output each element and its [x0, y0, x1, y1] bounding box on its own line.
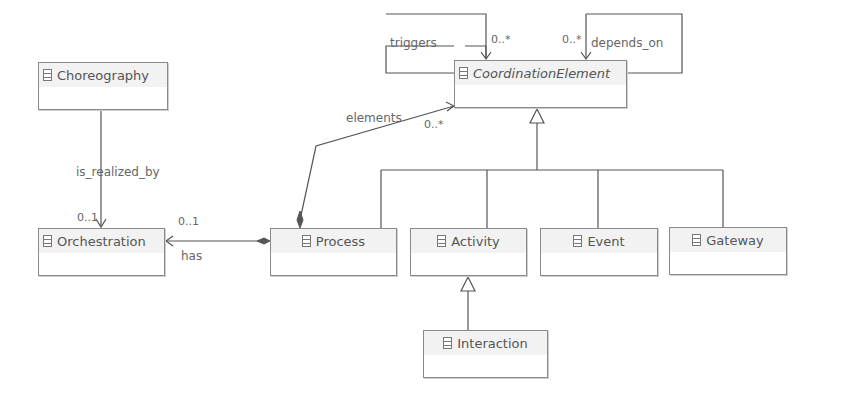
- coordination-generalization-triangle-icon: [530, 109, 544, 123]
- triggers-association-line: [386, 46, 454, 73]
- class-name: CoordinationElement: [473, 66, 610, 81]
- class-name: Process: [316, 234, 365, 249]
- depends-on-multiplicity: 0..*: [562, 33, 582, 46]
- class-icon: [437, 235, 446, 247]
- class-name: Choreography: [57, 68, 149, 83]
- elements-multiplicity: 0..*: [424, 118, 444, 131]
- has-composition-diamond-icon: [257, 238, 270, 244]
- class-icon: [43, 69, 52, 81]
- class-name: Gateway: [706, 233, 763, 248]
- triggers-label: triggers: [390, 36, 437, 50]
- class-coordination-element[interactable]: CoordinationElement: [454, 60, 627, 108]
- class-activity[interactable]: Activity: [410, 228, 527, 276]
- class-icon: [443, 337, 452, 349]
- class-name: Orchestration: [57, 234, 146, 249]
- has-multiplicity: 0..1: [178, 215, 199, 228]
- class-interaction[interactable]: Interaction: [423, 330, 548, 378]
- class-icon: [692, 234, 701, 246]
- elements-label: elements: [346, 111, 402, 125]
- class-choreography[interactable]: Choreography: [38, 62, 168, 110]
- class-event[interactable]: Event: [540, 228, 658, 276]
- activity-generalization-triangle-icon: [461, 277, 475, 291]
- class-name: Event: [587, 234, 624, 249]
- class-diagram-canvas: CoordinationElement Choreography Orchest…: [0, 0, 852, 399]
- class-icon: [573, 235, 582, 247]
- elements-composition-diamond-icon: [297, 211, 303, 228]
- class-name: Activity: [451, 234, 500, 249]
- class-icon: [43, 235, 52, 247]
- class-icon: [459, 67, 468, 79]
- class-icon: [302, 235, 311, 247]
- depends-on-label: depends_on: [591, 36, 663, 50]
- triggers-multiplicity: 0..*: [491, 33, 511, 46]
- is-realized-by-label: is_realized_by: [76, 165, 160, 179]
- class-orchestration[interactable]: Orchestration: [38, 228, 165, 276]
- class-gateway[interactable]: Gateway: [669, 227, 787, 275]
- class-name: Interaction: [457, 336, 528, 351]
- is-realized-by-multiplicity: 0..1: [77, 211, 98, 224]
- has-label: has: [181, 249, 202, 263]
- elements-arrowhead-icon: [446, 102, 454, 111]
- class-process[interactable]: Process: [270, 228, 397, 276]
